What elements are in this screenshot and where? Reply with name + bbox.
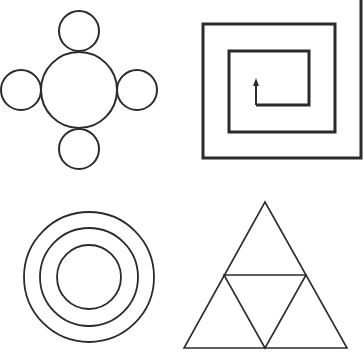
concentric-circles: [24, 212, 154, 342]
circle-cluster: [1, 11, 157, 169]
right-satellite-circle: [117, 70, 157, 110]
ring-1: [24, 212, 154, 342]
top-satellite-circle: [59, 11, 99, 51]
arrow-up-icon: [253, 78, 259, 86]
bottom-satellite-circle: [59, 129, 99, 169]
center-circle: [41, 52, 117, 128]
subdivided-triangle: [184, 202, 347, 348]
square-spiral: [203, 0, 361, 158]
left-satellite-circle: [1, 70, 41, 110]
ring-2: [40, 228, 138, 326]
inner-triangle: [224, 275, 306, 348]
figure-canvas: [0, 0, 364, 359]
spiral-path: [203, 0, 361, 158]
ring-3: [57, 245, 121, 309]
